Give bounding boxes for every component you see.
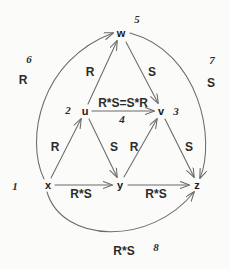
index-label-7: 7 [209,55,215,66]
index-label-2: 2 [65,105,71,116]
edge-label-u-to-y: S [110,141,118,153]
index-label-3: 3 [173,106,179,117]
diagram-graphics [0,0,230,269]
edge-label-v-to-z: S [185,141,193,153]
node-w[interactable]: w [117,28,126,39]
edge-label-w-to-v: S [148,66,156,78]
node-u[interactable]: u [82,106,89,117]
edge-label-outer-bottom: R*S [113,245,134,257]
edge-label-x-to-y: R*S [70,188,91,200]
node-v[interactable]: v [158,106,164,117]
edge-label-u-to-w: R [86,66,95,78]
index-label-6: 6 [26,54,32,65]
index-label-1: 1 [12,181,18,192]
diagram-canvas: w u v x y z R S R*S=S*R R S R S R*S R*S … [0,0,230,269]
edge-label-y-to-z: R*S [145,188,166,200]
node-y[interactable]: y [117,180,123,191]
index-label-5: 5 [134,14,140,25]
edge-label-outer-left: R [19,74,28,86]
index-label-4: 4 [119,114,125,125]
index-label-8: 8 [153,242,159,253]
node-z[interactable]: z [194,180,200,191]
edge-outer-bottom-x-to-z [47,192,194,232]
edge-label-y-to-v: R [130,141,139,153]
edge-label-u-to-v: R*S=S*R [98,97,148,109]
edge-label-x-to-u: R [51,141,60,153]
node-x[interactable]: x [45,180,51,191]
edge-label-outer-right: S [207,77,215,89]
